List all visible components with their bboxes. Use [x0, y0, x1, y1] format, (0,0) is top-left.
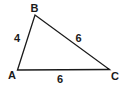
vertex-label-a: A: [8, 69, 16, 81]
side-label-bc: 6: [76, 32, 82, 44]
vertex-label-b: B: [31, 2, 39, 14]
triangle-diagram: B A C 4 6 6: [0, 0, 131, 86]
side-label-ab: 4: [14, 32, 21, 44]
side-label-ac: 6: [57, 73, 63, 85]
triangle-abc: [18, 15, 110, 70]
vertex-label-c: C: [111, 70, 119, 82]
